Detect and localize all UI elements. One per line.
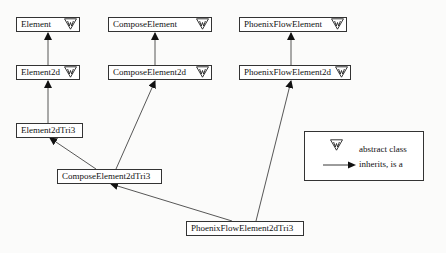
class-name: Element <box>21 18 51 31</box>
class-name: PhoenixFlowElement2dTri3 <box>191 222 293 235</box>
class-box-element2d: Element2d <box>16 65 80 80</box>
abstract-class-triangle-icon <box>335 66 348 78</box>
class-box-compose-element2d: ComposeElement2d <box>108 65 212 80</box>
edge-composeelement2dtri3-to-element2dtri3 <box>50 138 96 169</box>
edge-phoenixflowelement2dtri3-to-composeelement2dtri3 <box>111 184 232 221</box>
abstract-class-triangle-icon <box>196 18 209 30</box>
class-box-element2dtri3: Element2dTri3 <box>16 123 83 138</box>
class-box-phoenix-flow-element: PhoenixFlowElement <box>239 17 347 32</box>
class-name: ComposeElement2d <box>113 66 186 79</box>
edge-composeelement2dtri3-to-composeelement2d <box>116 81 155 169</box>
class-box-element: Element <box>16 17 80 32</box>
class-box-phoenix-flow-element2dtri3: PhoenixFlowElement2dTri3 <box>186 221 304 236</box>
class-name: ComposeElement <box>113 18 177 31</box>
abstract-class-triangle-icon <box>64 66 77 78</box>
abstract-class-triangle-icon <box>331 18 344 30</box>
class-box-compose-element: ComposeElement <box>108 17 212 32</box>
abstract-class-triangle-icon <box>330 139 343 151</box>
class-name: Element2dTri3 <box>21 124 75 137</box>
inheritance-arrow-icon <box>323 161 357 169</box>
legend-inherits-label: inherits, is a <box>359 159 403 169</box>
class-name: PhoenixFlowElement <box>244 18 322 31</box>
class-name: Element2d <box>21 66 60 79</box>
legend: abstract class inherits, is a <box>304 131 424 181</box>
abstract-class-triangle-icon <box>64 18 77 30</box>
edge-phoenixflowelement2dtri3-to-phoenixflowelement2d <box>256 81 291 221</box>
class-diagram: Element ComposeElement PhoenixFlowElemen… <box>0 0 446 253</box>
class-name: ComposeElement2dTri3 <box>62 170 150 183</box>
abstract-class-triangle-icon <box>196 66 209 78</box>
legend-abstract-label: abstract class <box>359 144 407 154</box>
class-box-compose-element2dtri3: ComposeElement2dTri3 <box>57 169 162 184</box>
class-box-phoenix-flow-element2d: PhoenixFlowElement2d <box>239 65 351 80</box>
class-name: PhoenixFlowElement2d <box>244 66 331 79</box>
